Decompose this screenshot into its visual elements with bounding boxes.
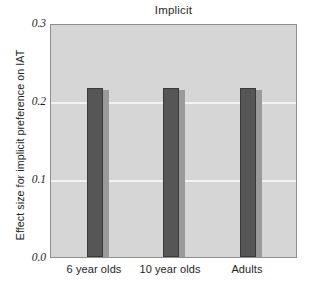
x-tick-label-10-year-olds: 10 year olds [139, 263, 200, 275]
x-axis-tick-labels: 6 year olds 10 year olds Adults [50, 263, 297, 283]
y-axis-tick-labels: 0.3 0.2 0.1 0.0 [18, 0, 46, 292]
y-tick-label-0.3: 0.3 [18, 17, 46, 29]
bar-adults[interactable] [240, 88, 256, 257]
y-tick-label-0.2: 0.2 [18, 95, 46, 107]
bar-10-year-olds[interactable] [163, 88, 179, 257]
y-tick-label-0.1: 0.1 [18, 173, 46, 185]
plot-area [50, 24, 297, 258]
implicit-bar-chart-figure: Implicit Effect size for implicit prefer… [0, 0, 314, 292]
x-tick-label-adults: Adults [231, 263, 262, 275]
bar-6-year-olds[interactable] [87, 88, 103, 257]
y-tick-label-0.0: 0.0 [18, 251, 46, 263]
chart-title: Implicit [50, 4, 297, 16]
x-tick-label-6-year-olds: 6 year olds [67, 263, 122, 275]
